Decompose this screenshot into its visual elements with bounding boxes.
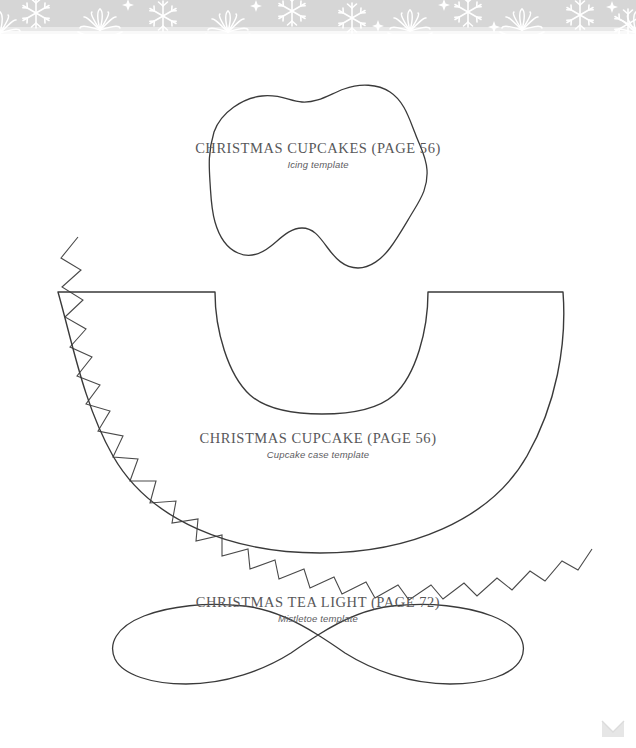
chevron-mark-icon — [600, 718, 626, 740]
cupcake-case-subtitle: Cupcake case template — [0, 448, 636, 461]
label-icing-template: CHRISTMAS CUPCAKES (PAGE 56) Icing templ… — [0, 140, 636, 171]
corner-mark — [600, 718, 626, 740]
snowflake-border-band — [0, 0, 636, 34]
cupcake-case-title: CHRISTMAS CUPCAKE (PAGE 56) — [0, 430, 636, 446]
tea-light-title: CHRISTMAS TEA LIGHT (PAGE 72) — [0, 594, 636, 610]
template-artwork — [0, 0, 636, 748]
cupcake-case-outline — [58, 292, 564, 553]
snowflake-border-icon — [0, 0, 636, 34]
icing-template-subtitle: Icing template — [0, 158, 636, 171]
icing-blob-outline — [209, 85, 427, 268]
icing-template-title: CHRISTMAS CUPCAKES (PAGE 56) — [0, 140, 636, 156]
tea-light-subtitle: Mistletoe template — [0, 612, 636, 625]
label-cupcake-case-template: CHRISTMAS CUPCAKE (PAGE 56) Cupcake case… — [0, 430, 636, 461]
label-tea-light-template: CHRISTMAS TEA LIGHT (PAGE 72) Mistletoe … — [0, 594, 636, 625]
template-page: CHRISTMAS CUPCAKES (PAGE 56) Icing templ… — [0, 0, 636, 748]
cupcake-case-zigzag-trim — [61, 237, 592, 600]
